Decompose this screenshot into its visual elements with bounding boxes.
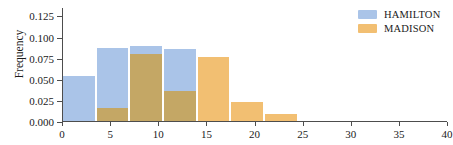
histogram-bar-overlap xyxy=(130,54,162,121)
x-tick xyxy=(447,122,448,126)
y-tick-label: 0.125 xyxy=(29,10,54,22)
legend-item-madison[interactable]: MADISON xyxy=(358,23,440,34)
legend-label-hamilton: HAMILTON xyxy=(384,9,440,20)
x-tick xyxy=(351,122,352,126)
histogram-bar xyxy=(198,57,230,121)
x-tick xyxy=(399,122,400,126)
legend-swatch-hamilton xyxy=(358,10,377,19)
y-axis-label: Frequency xyxy=(13,4,25,104)
x-tick-label: 25 xyxy=(297,128,308,140)
y-tick xyxy=(57,59,62,60)
x-tick xyxy=(303,122,304,126)
x-tick-label: 0 xyxy=(59,128,65,140)
legend: HAMILTON MADISON xyxy=(358,9,440,34)
x-tick-label: 30 xyxy=(345,128,356,140)
x-tick-label: 40 xyxy=(442,128,453,140)
legend-label-madison: MADISON xyxy=(384,23,434,34)
x-tick-label: 35 xyxy=(393,128,404,140)
x-tick xyxy=(158,122,159,126)
x-tick xyxy=(255,122,256,126)
y-tick-label: 0.075 xyxy=(29,53,54,65)
x-tick-label: 20 xyxy=(249,128,260,140)
y-tick xyxy=(57,16,62,17)
histogram-bar xyxy=(231,102,263,121)
x-tick xyxy=(110,122,111,126)
legend-item-hamilton[interactable]: HAMILTON xyxy=(358,9,440,20)
x-tick-label: 5 xyxy=(107,128,113,140)
histogram-bar-overlap xyxy=(164,91,196,121)
y-tick-label: 0.050 xyxy=(29,74,54,86)
y-tick-label: 0.100 xyxy=(29,32,54,44)
histogram-bar xyxy=(63,76,95,121)
x-tick-label: 10 xyxy=(153,128,164,140)
y-tick xyxy=(57,101,62,102)
y-tick-label: 0.025 xyxy=(29,95,54,107)
histogram-bar-overlap xyxy=(97,108,129,121)
y-tick-label: 0.000 xyxy=(29,116,54,128)
legend-swatch-madison xyxy=(358,24,377,33)
x-tick-label: 15 xyxy=(201,128,212,140)
y-tick xyxy=(57,38,62,39)
y-tick xyxy=(57,80,62,81)
x-tick xyxy=(206,122,207,126)
histogram-bar xyxy=(265,114,297,121)
x-tick xyxy=(62,122,63,126)
